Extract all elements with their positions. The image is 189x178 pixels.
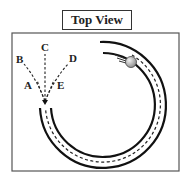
circular-track — [40, 42, 166, 168]
arrowhead-icon — [42, 100, 48, 105]
track-outer-wall — [40, 42, 166, 168]
path-E — [45, 80, 54, 101]
candidate-paths — [24, 54, 68, 101]
label-A: A — [24, 79, 32, 91]
label-C: C — [41, 41, 49, 53]
ball-icon — [126, 57, 137, 68]
label-B: B — [16, 53, 24, 65]
label-E: E — [57, 79, 64, 91]
track-inner-wall — [51, 53, 155, 157]
label-D: D — [69, 52, 77, 64]
diagram-canvas: B C D A E — [0, 0, 189, 178]
path-A — [37, 80, 45, 101]
